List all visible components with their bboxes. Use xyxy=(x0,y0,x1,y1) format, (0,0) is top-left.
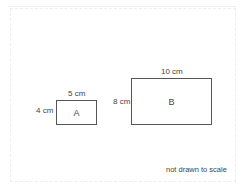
top-border-line xyxy=(8,6,236,7)
rect-b-name: B xyxy=(132,79,211,124)
rect-a-height-label: 4 cm xyxy=(36,106,53,115)
rect-a-name: A xyxy=(57,101,96,124)
rectangle-a: A xyxy=(56,100,97,125)
rect-a-width-label: 5 cm xyxy=(68,89,85,98)
rect-b-height-label: 8 cm xyxy=(113,97,130,106)
rectangle-b: B xyxy=(131,78,212,125)
rect-b-width-label: 10 cm xyxy=(161,67,183,76)
scale-note: not drawn to scale xyxy=(166,165,227,174)
